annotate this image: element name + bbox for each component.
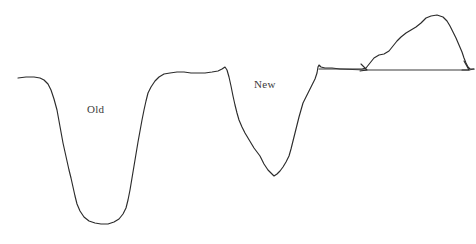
line-trace-graphic	[0, 0, 476, 244]
baseline-segment-path	[319, 69, 474, 70]
figure-canvas: Old New	[0, 0, 476, 244]
profile-trace-path	[18, 15, 474, 224]
new-region-label: New	[254, 79, 276, 90]
old-region-label: Old	[87, 104, 104, 115]
